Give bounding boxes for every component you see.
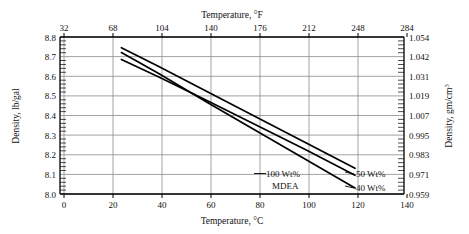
density-temperature-chart-figure: Temperature, °F 32 68 104 140 176 212 24… [0,0,469,234]
right-tick-label: 0.959 [409,190,430,200]
left-axis-title: Density, lb/gal [11,88,21,144]
bottom-tick-label: 20 [109,200,119,210]
right-axis-title-superscript: 3 [443,84,450,87]
left-tick-label: 8.8 [45,33,57,43]
bottom-tick-label: 40 [158,200,168,210]
bottom-tick-label: 100 [302,200,316,210]
annotation-40wt-label: 40 Wt% [356,183,386,193]
top-tick-label: 140 [204,23,218,33]
right-tick-label: 1.007 [409,111,430,121]
right-tick-label: 1.031 [409,72,429,82]
top-tick-label: 284 [400,23,414,33]
bottom-tick-label: 60 [207,200,217,210]
right-tick-label: 1.019 [409,91,430,101]
annotation-50wt-label: 50 Wt% [356,169,386,179]
left-tick-label: 8.2 [45,150,56,160]
chart-canvas: Temperature, °F 32 68 104 140 176 212 24… [0,0,469,234]
left-tick-label: 8.0 [45,190,57,200]
left-tick-label: 8.7 [45,52,57,62]
chart-background [0,0,469,234]
top-tick-label: 212 [302,23,316,33]
bottom-axis-title: Temperature, °C [201,216,264,226]
left-tick-label: 8.6 [45,72,57,82]
right-axis-title: Density, gm/cm3 [443,84,454,147]
right-tick-label: 0.971 [409,170,429,180]
right-axis-title-text: Density, gm/cm [444,87,454,148]
left-axis-tick-labels: 8.8 8.7 8.6 8.5 8.4 8.3 8.2 8.1 8.0 [45,33,57,200]
right-tick-label: 0.995 [409,131,430,141]
top-tick-label: 32 [60,23,69,33]
bottom-tick-label: 0 [62,200,67,210]
right-axis-title-group: Density, gm/cm3 [443,84,454,147]
top-axis-title: Temperature, °F [201,10,263,20]
left-tick-label: 8.3 [45,131,57,141]
top-tick-label: 176 [253,23,267,33]
left-tick-label: 8.5 [45,91,57,101]
bottom-tick-label: 120 [351,200,365,210]
right-tick-label: 1.054 [409,33,430,43]
top-tick-label: 248 [351,23,365,33]
annotation-mdea-label: MDEA [272,181,299,191]
right-tick-label: 0.983 [409,150,430,160]
right-axis-tick-labels: 1.054 1.042 1.031 1.019 1.007 0.995 0.98… [409,33,430,200]
left-tick-label: 8.4 [45,111,57,121]
annotation-100wt-label: 100 Wt% [266,169,301,179]
left-tick-label: 8.1 [45,170,56,180]
bottom-tick-label: 80 [256,200,266,210]
right-tick-label: 1.042 [409,52,429,62]
top-tick-label: 68 [109,23,119,33]
top-tick-label: 104 [155,23,169,33]
bottom-tick-label: 140 [400,200,414,210]
